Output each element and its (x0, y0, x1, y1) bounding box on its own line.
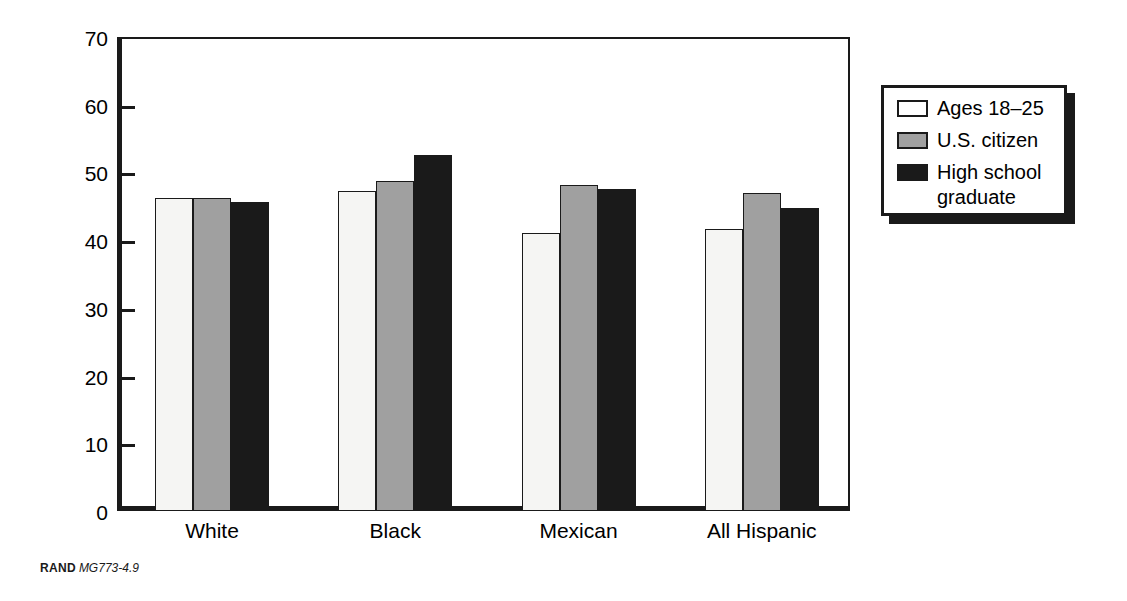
y-axis-title: Percent (0, 204, 3, 271)
bar (338, 191, 376, 511)
y-tick-label: 70 (48, 24, 108, 54)
y-tick-label: 20 (48, 363, 108, 393)
x-axis-label: Mexican (539, 519, 617, 543)
y-tick-label: 0 (48, 498, 108, 528)
bar (522, 233, 560, 511)
bar (781, 208, 819, 511)
legend-item[interactable]: U.S. citizen (897, 128, 1038, 153)
y-tick-label: 40 (48, 227, 108, 257)
bar (376, 181, 414, 511)
bar (743, 193, 781, 511)
legend-item[interactable]: High school graduate (897, 160, 1042, 210)
legend: Ages 18–25U.S. citizenHigh school gradua… (881, 85, 1067, 216)
bar (414, 155, 452, 511)
x-axis-label: White (185, 519, 239, 543)
legend-label: U.S. citizen (937, 128, 1038, 153)
figure-bar-chart: 010203040506070 Percent WhiteBlackMexica… (0, 0, 1127, 601)
figure-caption: RANDMG773-4.9 (40, 561, 139, 575)
bar (705, 229, 743, 511)
legend-swatch-icon (897, 132, 928, 149)
y-tick-label: 60 (48, 92, 108, 122)
legend-label: High school graduate (937, 160, 1042, 210)
bar (193, 198, 231, 511)
x-axis-label: Black (370, 519, 421, 543)
legend-swatch-icon (897, 164, 928, 181)
bar (231, 202, 269, 511)
y-tick-label: 50 (48, 159, 108, 189)
caption-id: MG773-4.9 (79, 561, 139, 575)
legend-label: Ages 18–25 (937, 96, 1044, 121)
caption-brand: RAND (40, 561, 76, 575)
legend-swatch-icon (897, 100, 928, 117)
bars-layer (117, 37, 850, 511)
x-axis-label: All Hispanic (707, 519, 817, 543)
y-tick-label: 10 (48, 430, 108, 460)
bar (560, 185, 598, 511)
bar (598, 189, 636, 511)
bar (155, 198, 193, 511)
y-tick-label: 30 (48, 295, 108, 325)
legend-item[interactable]: Ages 18–25 (897, 96, 1044, 121)
